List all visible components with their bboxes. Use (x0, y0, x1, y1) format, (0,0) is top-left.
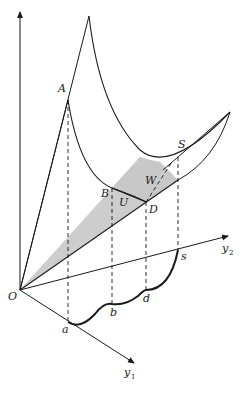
y1-axis (20, 290, 134, 363)
base-curve (68, 250, 178, 325)
label-S: S (178, 138, 186, 151)
label-A: A (57, 82, 66, 95)
label-y1-sub: 1 (131, 373, 135, 381)
label-s: s (181, 250, 187, 263)
label-b: b (110, 306, 117, 319)
label-O: O (8, 290, 17, 303)
label-y2: y (221, 242, 229, 255)
edge-lower-tip (178, 112, 230, 180)
diagram-canvas: A B U D W S O a b d s y 2 y 1 (0, 0, 243, 393)
label-a: a (62, 323, 69, 336)
label-y2-sub: 2 (229, 249, 233, 257)
label-y1: y (123, 366, 131, 379)
outer-curve (89, 16, 230, 157)
edge-S-tip (163, 112, 230, 170)
label-U: U (119, 196, 129, 209)
label-B: B (100, 187, 109, 200)
label-d: d (143, 292, 150, 305)
label-W: W (145, 174, 158, 187)
label-D: D (148, 203, 158, 216)
